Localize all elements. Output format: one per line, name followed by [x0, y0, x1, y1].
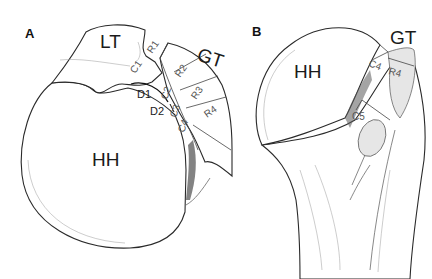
panel-b-label: B	[252, 24, 261, 39]
panel-a-lt-label: LT	[100, 31, 121, 52]
marker-d2: D2	[150, 105, 164, 117]
panel-b-gt-label: GT	[390, 27, 417, 48]
panel-b-hh-label: HH	[294, 61, 321, 82]
panel-a-hh-label: HH	[92, 149, 119, 170]
panel-b-segment-c4: C4	[367, 58, 383, 73]
marker-d1: D1	[137, 88, 151, 100]
panel-a: A LT GT HH C1 R1 R2 R3 R4 C2 C3 C4 D1 D2	[21, 25, 232, 248]
figure-canvas: A LT GT HH C1 R1 R2 R3 R4 C2 C3 C4 D1 D2	[0, 0, 432, 279]
panel-b: B HH GT C4 R4 C5	[252, 24, 425, 279]
segment-r1: R1	[145, 38, 162, 55]
panel-a-label: A	[25, 26, 35, 41]
panel-a-bone-shading	[186, 140, 196, 200]
panel-b-segment-c5: C5	[352, 111, 365, 122]
